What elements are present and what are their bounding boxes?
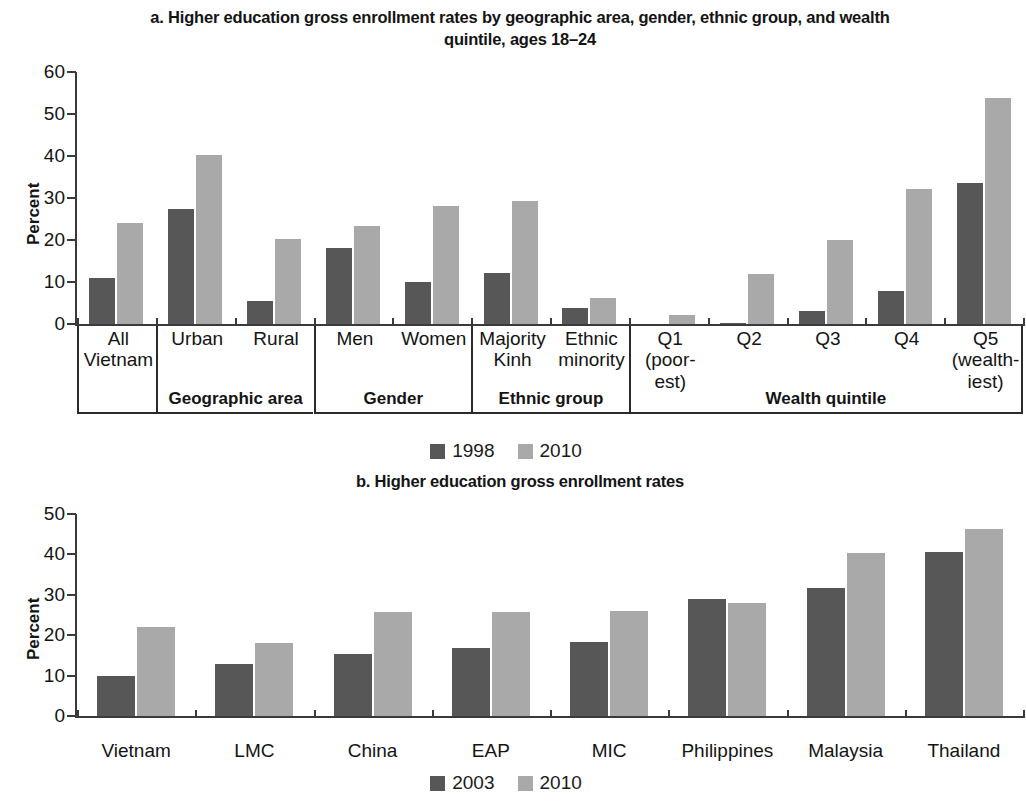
category-label-line: Urban (158, 328, 237, 349)
category-label-line: Q3 (788, 328, 867, 349)
bar-group (629, 72, 708, 324)
category-group-label: Ethnic group (473, 389, 629, 409)
legend-item: 2003 (430, 772, 494, 794)
bar-group (550, 72, 629, 324)
category-group-box: MenWomenGender (314, 326, 472, 414)
category-label-line: Q5 (946, 328, 1025, 349)
y-tick-label: 10 (17, 665, 65, 687)
x-tickmark (314, 710, 316, 718)
bar (799, 311, 825, 324)
x-tickmark (77, 710, 79, 718)
category-group-box: Q1(poor-est)Q2Q3Q4Q5(wealth-iest)Wealth … (629, 326, 1023, 414)
category-label-line: Majority (473, 328, 552, 349)
bar-group (314, 72, 393, 324)
bar (334, 654, 372, 716)
x-tickmark (471, 318, 473, 326)
category-group-box: MajorityKinhEthnicminorityEthnic group (471, 326, 629, 414)
bar-group (235, 72, 314, 324)
y-tick-label: 30 (17, 584, 65, 606)
x-tickmark (156, 318, 158, 326)
category-label: Vietnam (77, 740, 195, 762)
bar (255, 643, 293, 716)
bar (89, 278, 115, 324)
x-tickmark (905, 710, 907, 718)
panel-a-title: a. Higher education gross enrollment rat… (150, 6, 890, 51)
figure-root: a. Higher education gross enrollment rat… (0, 0, 1026, 805)
category-label-line: All (79, 328, 158, 349)
bar (957, 183, 983, 324)
category-label: AllVietnam (79, 328, 158, 371)
category-label: EAP (432, 740, 550, 762)
x-tickmark (314, 318, 316, 326)
bar-group (77, 72, 156, 324)
bar (484, 273, 510, 324)
bar (275, 239, 301, 324)
legend-swatch (518, 444, 533, 459)
legend-swatch (518, 776, 533, 791)
bar (247, 301, 273, 324)
y-tick-label: 10 (17, 271, 65, 293)
legend-item: 2010 (518, 440, 582, 462)
y-tick-label: 0 (17, 705, 65, 727)
category-label-line: Q2 (710, 328, 789, 349)
x-tickmark (1023, 710, 1025, 718)
bar (405, 282, 431, 324)
x-tickmark (787, 318, 789, 326)
bar (827, 240, 853, 324)
bar-group (156, 72, 235, 324)
category-label-line: Vietnam (79, 349, 158, 370)
bar (688, 599, 726, 716)
legend-item: 1998 (430, 440, 494, 462)
panel-b-plot-area (77, 514, 1023, 716)
bar (878, 291, 904, 324)
legend-label: 2010 (540, 440, 582, 462)
category-label: Thailand (905, 740, 1023, 762)
bar-group (708, 72, 787, 324)
category-label-line: minority (552, 349, 631, 370)
panel-b-x-axis-line (75, 716, 1023, 718)
bar (562, 308, 588, 324)
y-tick-label: 60 (17, 61, 65, 83)
panel-b-title: b. Higher education gross enrollment rat… (200, 470, 840, 492)
bar (906, 189, 932, 324)
legend-item: 2010 (518, 772, 582, 794)
bar-group (392, 72, 471, 324)
legend-swatch (430, 444, 445, 459)
bar (985, 98, 1011, 324)
category-label: China (314, 740, 432, 762)
x-tickmark (787, 710, 789, 718)
bar (965, 529, 1003, 716)
category-label: Q5(wealth-iest) (946, 328, 1025, 392)
bar-group (865, 72, 944, 324)
bar (374, 612, 412, 716)
bar (196, 155, 222, 324)
y-tick-label: 30 (17, 187, 65, 209)
bar (215, 664, 253, 716)
x-tickmark (195, 710, 197, 718)
category-label: Malaysia (787, 740, 905, 762)
y-tick-label: 0 (17, 313, 65, 335)
category-label: Women (394, 328, 473, 349)
bar-group (668, 514, 786, 716)
bar (137, 627, 175, 716)
bar-group (195, 514, 313, 716)
bar (512, 201, 538, 324)
category-label: Men (316, 328, 395, 349)
bar (925, 552, 963, 716)
category-label-line: Men (316, 328, 395, 349)
bar-group (905, 514, 1023, 716)
x-tickmark (77, 318, 79, 326)
bar (748, 274, 774, 324)
bar-group (314, 514, 432, 716)
x-tickmark (550, 710, 552, 718)
bar-group (787, 72, 866, 324)
category-label-line: Q4 (867, 328, 946, 349)
bar (720, 323, 746, 324)
bar-group (432, 514, 550, 716)
category-label-line: Women (394, 328, 473, 349)
y-tick-label: 40 (17, 543, 65, 565)
panel-b-legend: 20032010 (0, 772, 1026, 794)
y-tick-label: 50 (17, 503, 65, 525)
bar (847, 553, 885, 716)
bar (570, 642, 608, 716)
